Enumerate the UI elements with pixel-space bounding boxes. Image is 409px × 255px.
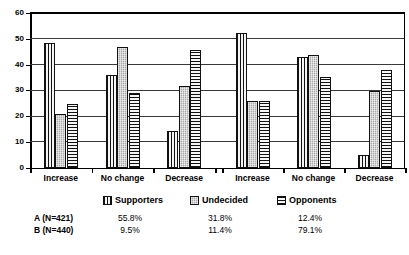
- x-tick-mark: [92, 168, 94, 173]
- bar-group-B-increase: [236, 13, 270, 168]
- legend-label-opponents: Opponents: [289, 196, 337, 205]
- bar-A-decrease-supporters: [167, 131, 178, 168]
- y-tick-label-30: 30: [0, 86, 24, 94]
- bar-A-increase-supporters: [44, 43, 55, 168]
- legend-item-undecided: Undecided: [190, 196, 248, 205]
- y-tick-label-40: 40: [0, 61, 24, 69]
- plot-area: 0102030405060 IncreaseNo changeDecreaseI…: [0, 0, 409, 190]
- legend-item-supporters: Supporters: [103, 196, 163, 205]
- bar-B-increase-opponents: [259, 101, 270, 168]
- table-cell: 12.4%: [280, 212, 340, 224]
- bar-A-decrease-opponents: [190, 50, 201, 168]
- y-tick-label-10: 10: [0, 138, 24, 146]
- bar-A-decrease-undecided: [179, 86, 190, 168]
- data-table: A (N=421)55.8%31.8%12.4%B (N=440)9.5%11.…: [0, 212, 409, 236]
- bar-B-no-change-supporters: [297, 57, 308, 168]
- table-cell: 55.8%: [100, 212, 160, 224]
- bar-group-A-decrease: [167, 13, 201, 168]
- table-row: A (N=421)55.8%31.8%12.4%: [0, 212, 409, 224]
- legend-item-opponents: Opponents: [277, 196, 337, 205]
- bar-B-decrease-opponents: [381, 70, 392, 168]
- legend-swatch-supporters: [103, 196, 112, 205]
- x-tick-mark: [405, 168, 407, 173]
- legend-label-undecided: Undecided: [202, 196, 248, 205]
- table-cell: 9.5%: [100, 224, 160, 236]
- bar-A-increase-undecided: [55, 114, 66, 168]
- bar-A-no-change-opponents: [129, 93, 140, 168]
- bar-group-B-no-change: [297, 13, 331, 168]
- x-tick-mark: [283, 168, 285, 173]
- legend-swatch-opponents: [277, 196, 286, 205]
- table-cell: 11.4%: [190, 224, 250, 236]
- y-tick-label-20: 20: [0, 112, 24, 120]
- table-cell: 31.8%: [190, 212, 250, 224]
- bar-B-no-change-undecided: [308, 55, 319, 168]
- bar-A-increase-opponents: [67, 104, 78, 168]
- bar-group-B-decrease: [358, 13, 392, 168]
- chart-figure: 0102030405060 IncreaseNo changeDecreaseI…: [0, 0, 409, 255]
- legend-label-supporters: Supporters: [115, 196, 163, 205]
- bar-group-A-increase: [44, 13, 78, 168]
- bar-B-increase-undecided: [247, 101, 258, 168]
- table-row-label: A (N=421): [34, 212, 73, 224]
- bar-B-no-change-opponents: [320, 77, 331, 168]
- panel-A: [30, 13, 215, 168]
- chart-legend: SupportersUndecidedOpponents: [0, 196, 409, 209]
- y-tick-label-0: 0: [0, 164, 24, 172]
- y-tick-label-60: 60: [0, 9, 24, 17]
- table-cell: 79.1%: [280, 224, 340, 236]
- bar-B-decrease-supporters: [358, 155, 369, 168]
- bar-B-increase-supporters: [236, 33, 247, 168]
- y-tick-label-50: 50: [0, 35, 24, 43]
- bar-B-decrease-undecided: [369, 91, 380, 168]
- x-tick-label-B-decrease: Decrease: [335, 174, 409, 183]
- bar-A-no-change-undecided: [117, 47, 128, 168]
- x-tick-mark: [153, 168, 155, 173]
- table-row: B (N=440)9.5%11.4%79.1%: [0, 224, 409, 236]
- legend-swatch-undecided: [190, 196, 199, 205]
- bar-group-A-no-change: [106, 13, 140, 168]
- table-row-label: B (N=440): [34, 224, 73, 236]
- bar-A-no-change-supporters: [106, 75, 117, 168]
- panel-B: [222, 13, 405, 168]
- x-tick-mark: [344, 168, 346, 173]
- x-tick-mark: [215, 168, 217, 173]
- x-tick-mark: [30, 168, 32, 173]
- x-tick-mark: [222, 168, 224, 173]
